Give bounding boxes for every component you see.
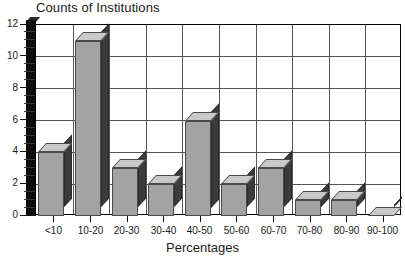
x-axis-tick [53,216,54,222]
y-axis-tick [20,151,36,152]
y-axis-label: 4 [0,146,18,156]
gridline-vertical [109,25,110,214]
gridline-vertical [329,25,330,214]
x-axis-label: 90-100 [364,225,401,236]
x-axis-tick [236,216,237,222]
x-axis-label: 60-70 [255,225,292,236]
y-axis-label: 6 [0,115,18,125]
gridline-vertical [256,25,257,214]
y-axis-minor-tick [24,199,35,200]
bar [368,25,394,216]
gridline-vertical [146,25,147,214]
bar-front-face [38,152,64,216]
x-axis-tick [310,216,311,222]
x-axis-tick [200,216,201,222]
bar-side-face [174,167,182,207]
y-axis-minor-tick [24,47,35,48]
bar-front-face [148,184,174,216]
gridline-vertical [365,25,366,214]
y-axis-minor-tick [24,143,35,144]
plot-area [35,24,401,215]
x-axis-tick [346,216,347,222]
bar [185,25,211,216]
bar-front-face [221,184,247,216]
y-axis-tick [20,215,36,216]
gridline-vertical [219,25,220,214]
bar [112,25,138,216]
bar-front-face [258,168,284,216]
bar-side-face [101,23,109,207]
bar-side-face [394,196,402,207]
x-axis-title: Percentages [0,240,405,255]
x-axis-label: 10-20 [72,225,109,236]
chart-title: Counts of Institutions [36,0,160,16]
bar [38,25,64,216]
y-axis-minor-tick [24,103,35,104]
y-axis-tick [20,87,36,88]
y-axis-minor-tick [24,207,35,208]
bar-side-face [247,167,255,207]
x-axis-tick [163,216,164,222]
y-axis-label: 2 [0,178,18,188]
bar-front-face [295,200,321,216]
x-axis-tick [127,216,128,222]
x-axis-label: 80-90 [328,225,365,236]
gridline-vertical [73,25,74,214]
y-axis-tick [20,119,36,120]
x-axis-label: 30-40 [145,225,182,236]
y-axis-minor-tick [24,175,35,176]
bar [258,25,284,216]
bar-front-face [331,200,357,216]
y-axis-label: 12 [0,19,18,29]
y-axis-minor-tick [24,95,35,96]
y-axis-minor-tick [24,135,35,136]
gridline-vertical [292,25,293,214]
bar [75,25,101,216]
x-axis-label: <10 [35,225,72,236]
gridline-vertical [182,25,183,214]
y-axis-tick [20,24,36,25]
y-axis-label: 0 [0,210,18,220]
y-axis-minor-tick [24,31,35,32]
y-axis-tick [20,183,36,184]
x-axis-label: 40-50 [181,225,218,236]
x-axis-label: 70-80 [291,225,328,236]
bar-front-face [185,121,211,217]
y-axis-label: 8 [0,83,18,93]
y-axis-minor-tick [24,63,35,64]
bar-front-face [112,168,138,216]
y-axis-minor-tick [24,79,35,80]
bar [331,25,357,216]
bar [221,25,247,216]
bar-chart: Counts of Institutions 024681012 <1010-2… [0,0,405,264]
x-axis-tick [273,216,274,222]
y-axis-minor-tick [24,159,35,160]
y-axis-tick [20,55,36,56]
bar [295,25,321,216]
y-axis-minor-tick [24,71,35,72]
y-axis-minor-tick [24,111,35,112]
bar [148,25,174,216]
y-axis-minor-tick [24,39,35,40]
x-axis-tick [90,216,91,222]
x-axis-tick [383,216,384,222]
y-axis-label: 10 [0,51,18,61]
y-axis-minor-tick [24,167,35,168]
x-axis-label: 20-30 [108,225,145,236]
bar-top-face [368,207,402,216]
x-axis-label: 50-60 [218,225,255,236]
bar-front-face [75,41,101,216]
y-axis-minor-tick [24,127,35,128]
y-axis-minor-tick [24,191,35,192]
